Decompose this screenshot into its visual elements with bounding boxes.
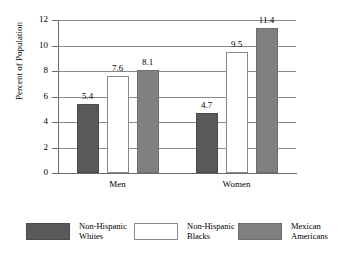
legend-entry[interactable]: MexicanAmericans <box>238 216 328 246</box>
legend-entry[interactable]: Non-HispanicWhites <box>26 216 127 246</box>
legend-label-line: Non-Hispanic <box>79 221 127 231</box>
plot-area: 5.47.68.14.79.511.4 <box>58 20 296 173</box>
x-axis-category-label: Women <box>177 179 296 189</box>
bar[interactable] <box>77 104 99 173</box>
legend-label-line: Whites <box>79 231 127 241</box>
bar-value-label: 8.1 <box>128 58 168 67</box>
y-axis-tick-label: 6 <box>18 92 48 101</box>
bar[interactable] <box>137 70 159 173</box>
y-axis-tick-label: 10 <box>18 41 48 50</box>
bar[interactable] <box>226 52 248 173</box>
x-axis-category-label: Men <box>58 179 177 189</box>
bar-value-label: 4.7 <box>187 101 227 110</box>
y-axis-tick <box>52 173 58 174</box>
y-axis-tick-label: 12 <box>18 15 48 24</box>
bar[interactable] <box>256 28 278 173</box>
legend-swatch <box>238 223 282 240</box>
legend-swatch <box>134 223 178 240</box>
legend-entry[interactable]: Non-HispanicBlacks <box>134 216 235 246</box>
legend-label-line: Blacks <box>187 231 235 241</box>
bar-value-label: 9.5 <box>217 40 257 49</box>
bar-value-label: 11.4 <box>247 16 287 25</box>
bar[interactable] <box>107 76 129 173</box>
bar-chart-figure: Percent of Population 024681012 5.47.68.… <box>0 0 360 254</box>
y-axis-tick-label: 0 <box>18 168 48 177</box>
x-axis-line <box>58 173 297 174</box>
legend-label-line: Mexican <box>291 221 328 231</box>
y-axis-tick-label: 2 <box>18 143 48 152</box>
legend-label-line: Non-Hispanic <box>187 221 235 231</box>
bar[interactable] <box>196 113 218 173</box>
y-axis-tick-label: 8 <box>18 66 48 75</box>
y-axis-tick-label: 4 <box>18 117 48 126</box>
legend-label: Non-HispanicBlacks <box>187 221 235 241</box>
bar-value-label: 5.4 <box>68 92 108 101</box>
legend-label-line: Americans <box>291 231 328 241</box>
legend-label: MexicanAmericans <box>291 221 328 241</box>
legend-swatch <box>26 223 70 240</box>
chart-legend: Non-HispanicWhitesNon-HispanicBlacksMexi… <box>26 216 338 246</box>
legend-label: Non-HispanicWhites <box>79 221 127 241</box>
